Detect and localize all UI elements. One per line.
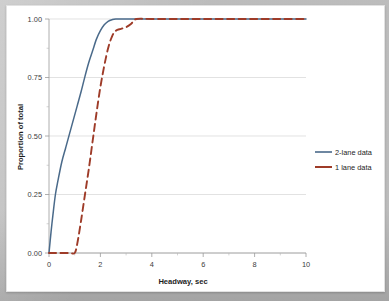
x-tick-label: 4 [150, 260, 154, 269]
x-tick-label: 10 [302, 260, 310, 269]
legend-label: 2-lane data [335, 148, 373, 157]
x-tick-label: 0 [47, 260, 51, 269]
y-tick-label: 0.00 [28, 249, 42, 258]
chart-figure-card: 0246810 0.000.250.500.751.00 2-lane data… [6, 5, 385, 292]
x-tick-labels-group: 0246810 [47, 260, 310, 269]
tick-marks-group [45, 19, 306, 257]
y-tick-labels-group: 0.000.250.500.751.00 [28, 15, 42, 258]
chart-legend: 2-lane data1 lane data [315, 148, 373, 172]
x-tick-label: 8 [253, 260, 257, 269]
x-tick-label: 6 [201, 260, 205, 269]
y-tick-label: 0.50 [28, 132, 42, 141]
gridlines-group [49, 19, 306, 253]
legend-label: 1 lane data [335, 163, 372, 172]
y-tick-label: 0.25 [28, 190, 42, 199]
headway-cumulative-distribution-chart: 0246810 0.000.250.500.751.00 2-lane data… [7, 6, 384, 291]
y-tick-label: 1.00 [28, 15, 42, 24]
x-axis-title: Headway, sec [158, 277, 207, 286]
x-tick-label: 2 [98, 260, 102, 269]
y-tick-label: 0.75 [28, 73, 42, 82]
y-axis-title: Proportion of total [16, 104, 25, 170]
